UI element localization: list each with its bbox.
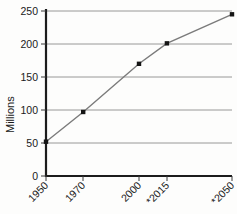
- x-tick-labels: 1950 1970 2000 *2015 *2050: [25, 179, 236, 207]
- x-tick-label-1970: 1970: [62, 179, 87, 204]
- data-point-1950: [44, 139, 48, 143]
- x-tick-label-2050: *2050: [209, 179, 237, 207]
- y-tick-label-150: 150: [20, 71, 38, 83]
- x-tick-label-2000: 2000: [118, 179, 143, 204]
- y-tick-label-50: 50: [26, 137, 38, 149]
- y-tick-label-0: 0: [32, 170, 38, 182]
- data-point-1970: [81, 110, 85, 114]
- series-line-population: [46, 14, 232, 141]
- data-point-2000: [137, 62, 141, 66]
- gridlines: [46, 11, 232, 143]
- chart-canvas: 250 200 150 100 50 0 Millions 1950 1970 …: [0, 0, 237, 214]
- y-tick-label-250: 250: [20, 5, 38, 17]
- data-point-2015: [165, 41, 169, 45]
- series-markers: [44, 12, 234, 144]
- y-tick-label-100: 100: [20, 104, 38, 116]
- line-chart: 250 200 150 100 50 0 Millions 1950 1970 …: [0, 0, 237, 214]
- x-tick-label-1950: 1950: [25, 179, 50, 204]
- y-tick-labels: 250 200 150 100 50 0: [20, 5, 38, 182]
- y-axis-title: Millions: [4, 96, 16, 133]
- data-point-2050: [230, 12, 234, 16]
- x-tick-label-2015: *2015: [144, 179, 172, 207]
- y-tick-label-200: 200: [20, 38, 38, 50]
